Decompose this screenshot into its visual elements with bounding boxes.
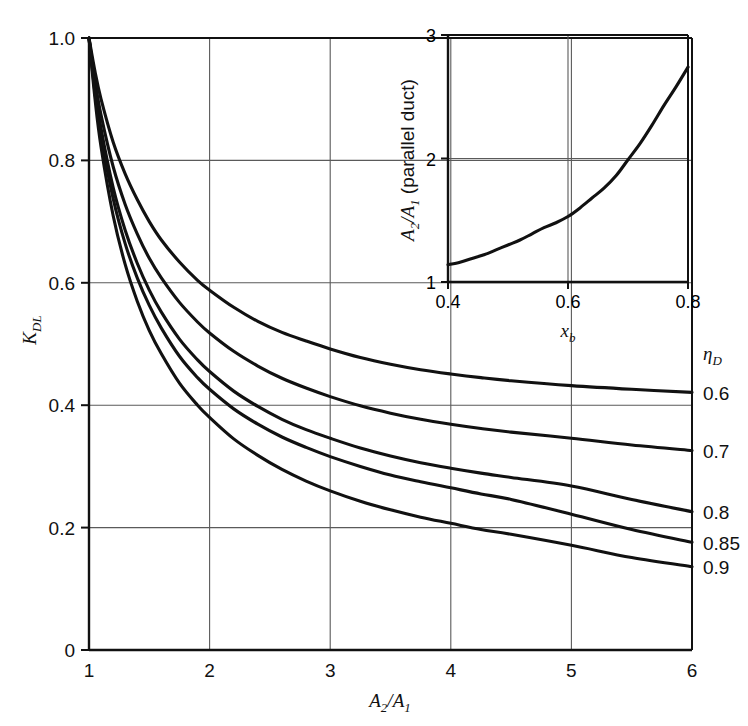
x-axis-title-sub2: 1 [404,700,411,715]
main-y-axis-title: KDL [19,315,44,345]
inset-x-axis-title: xb [560,320,576,345]
x-tick-label: 3 [325,660,336,681]
main-x-tick-labels: 123456 [84,660,698,681]
chart-canvas: 123456 00.20.40.60.81.0 0.60.70.80.850.9… [0,0,748,726]
x-tick-label: 4 [446,660,457,681]
y-tick-label: 0 [64,640,75,661]
y-tick-label: 0.8 [49,150,75,171]
legend-title-sub: D [711,353,722,368]
x-tick-label: 6 [687,660,698,681]
inset-y-title-base2: A [397,206,418,220]
main-gridlines [89,38,692,650]
svg-text:xb: xb [560,320,576,345]
svg-text:ηD: ηD [703,343,722,368]
y-tick-label: 0.6 [49,273,75,294]
curve-label: 0.6 [703,383,729,404]
main-plot: 123456 00.20.40.60.81.0 0.60.70.80.850.9… [19,28,740,715]
inset-gridlines [448,35,688,282]
inset-y-title-base1: A [397,229,418,243]
main-y-tick-labels: 00.20.40.60.81.0 [49,28,76,661]
legend-title-base: η [703,343,712,364]
main-data-curves [89,38,692,567]
y-tick-label: 0.2 [49,518,75,539]
figure-container: 123456 00.20.40.60.81.0 0.60.70.80.850.9… [0,0,748,726]
inset-y-axis-title: A2/A1 (parallel duct) [397,79,422,243]
inset-x-tick-labels: 0.40.60.8 [435,292,700,312]
x-tick-label: 1 [84,660,95,681]
y-tick-label: 0.4 [49,395,76,416]
inset-y-tick-label: 3 [426,26,436,46]
x-tick-label: 5 [566,660,577,681]
svg-text:KDL: KDL [19,315,44,345]
curve-label: 0.9 [703,557,729,578]
x-axis-title-base1: A [367,690,381,711]
svg-text:A2/A1: A2/A1 [367,690,411,715]
y-tick-label: 1.0 [49,28,75,49]
curve-label: 0.85 [703,533,740,554]
inset-y-tick-labels: 123 [426,26,436,293]
x-tick-label: 2 [204,660,215,681]
inset-plot: 0.40.60.8 123 A2/A1 (parallel duct) xb [397,26,701,345]
inset-x-title-sub: b [569,330,576,345]
legend-title: ηD [703,343,722,368]
inset-x-tick-label: 0.6 [555,292,580,312]
svg-text:A2/A1 (parallel duct): A2/A1 (parallel duct) [397,79,422,243]
curve-label: 0.8 [703,502,729,523]
inset-y-tick-label: 2 [426,150,436,170]
inset-y-tick-label: 1 [426,273,436,293]
data-curve [89,38,692,542]
x-axis-title-base2: A [391,690,405,711]
main-x-axis-title: A2/A1 [367,690,411,715]
y-axis-title-sub: DL [29,315,44,333]
inset-x-tick-label: 0.4 [435,292,460,312]
inset-x-tick-label: 0.8 [675,292,700,312]
main-curve-labels: 0.60.70.80.850.9 [703,383,740,578]
inset-y-title-suffix: (parallel duct) [397,79,418,199]
curve-label: 0.7 [703,441,729,462]
